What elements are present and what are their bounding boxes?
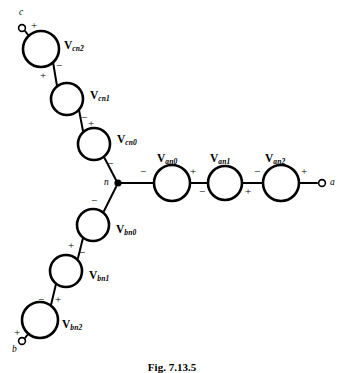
terminal-label-c: c — [19, 8, 23, 18]
source-bn2 — [22, 302, 58, 338]
source-label-cn2: Vcn2 — [64, 40, 84, 53]
polarity-an2-plus: + — [301, 166, 307, 177]
polarity-c-terminal-plus: + — [31, 20, 37, 31]
terminal-label-b: b — [12, 345, 17, 355]
polarity-bn0-plus: + — [68, 240, 74, 251]
polarity-cn0-minus: − — [107, 158, 113, 169]
source-label-an0: Van0 — [157, 153, 177, 166]
terminal-b-dot — [19, 338, 26, 345]
source-label-cn0: Vcn0 — [117, 134, 137, 147]
source-label-an1: Van1 — [210, 153, 230, 166]
terminal-a-dot — [319, 180, 326, 187]
polarity-bn1-plus: + — [55, 294, 61, 305]
source-bn1 — [50, 255, 82, 287]
polarity-bn1-minus: − — [79, 247, 85, 258]
polarity-cn0-plus: + — [88, 118, 94, 129]
polarity-cn1-plus: + — [40, 70, 46, 81]
polarity-an1-plus: + — [245, 186, 251, 197]
polarity-an0-minus: − — [140, 166, 146, 177]
polarity-bn2-plus: + — [14, 327, 20, 338]
source-an2 — [263, 165, 299, 201]
polarity-cn2-minus: − — [56, 60, 62, 71]
neutral-node-label: n — [104, 178, 109, 188]
polarity-bn0-minus: − — [91, 195, 97, 206]
source-an0 — [154, 165, 190, 201]
polarity-an1-minus: − — [199, 186, 205, 197]
source-label-bn2: Vbn2 — [62, 319, 82, 332]
polarity-an2-minus: − — [254, 166, 260, 177]
source-cn0 — [78, 128, 110, 160]
source-label-cn1: Vcn1 — [90, 90, 110, 103]
terminal-label-a: a — [330, 178, 335, 188]
figure-caption: Fig. 7.13.5 — [0, 361, 344, 373]
neutral-node-dot — [114, 179, 121, 186]
terminal-c-dot — [19, 25, 26, 32]
source-label-bn1: Vbn1 — [89, 270, 109, 283]
source-an1 — [208, 166, 242, 200]
source-label-an2: Van2 — [265, 153, 285, 166]
polarity-bn2-minus: − — [38, 294, 44, 305]
polarity-an0-plus: + — [190, 166, 196, 177]
source-label-bn0: Vbn0 — [116, 224, 136, 237]
polarity-cn1-minus: − — [81, 112, 87, 123]
source-cn1 — [51, 83, 83, 115]
source-cn2 — [23, 31, 59, 67]
source-bn0 — [77, 209, 109, 241]
